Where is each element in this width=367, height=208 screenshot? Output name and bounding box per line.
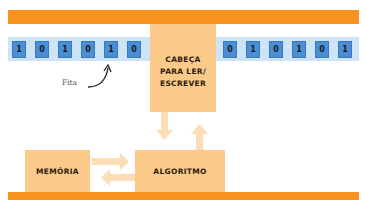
bottom-rail	[8, 192, 359, 200]
memory-label: MEMÓRIA	[36, 167, 79, 176]
memory-box: MEMÓRIA	[25, 150, 90, 192]
algorithm-box: ALGORITMO	[135, 150, 225, 192]
arrow-down-icon	[156, 112, 173, 140]
curved-arrow-icon	[88, 65, 111, 87]
turing-machine-diagram: 1 0 1 0 1 0 CABEÇA PARA LER/ ESCREVER 0 …	[0, 0, 367, 208]
arrow-right-icon	[92, 153, 129, 170]
arrow-up-icon	[191, 124, 208, 150]
algorithm-label: ALGORITMO	[153, 167, 206, 176]
arrow-left-icon	[101, 169, 135, 186]
